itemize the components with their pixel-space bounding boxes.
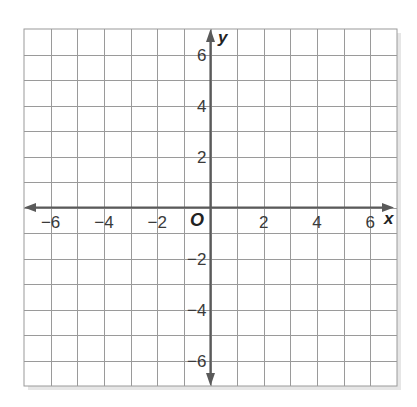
y-axis-label: y xyxy=(217,28,229,47)
y-tick-label: 6 xyxy=(197,46,206,65)
x-tick-label: 4 xyxy=(312,213,321,232)
x-tick-label: −4 xyxy=(94,213,113,232)
coordinate-plane: −6−4−2246642−2−4−6 x y O xyxy=(0,0,417,407)
x-tick-label: 6 xyxy=(366,213,375,232)
origin-label: O xyxy=(190,210,204,230)
x-axis-label: x xyxy=(383,209,395,228)
y-tick-label: −4 xyxy=(187,301,206,320)
y-tick-label: 2 xyxy=(197,148,206,167)
x-tick-label: −2 xyxy=(148,213,167,232)
y-tick-label: −6 xyxy=(187,352,206,371)
y-tick-label: −2 xyxy=(187,250,206,269)
x-tick-label: −6 xyxy=(41,213,60,232)
y-tick-label: 4 xyxy=(197,97,206,116)
x-tick-label: 2 xyxy=(259,213,268,232)
